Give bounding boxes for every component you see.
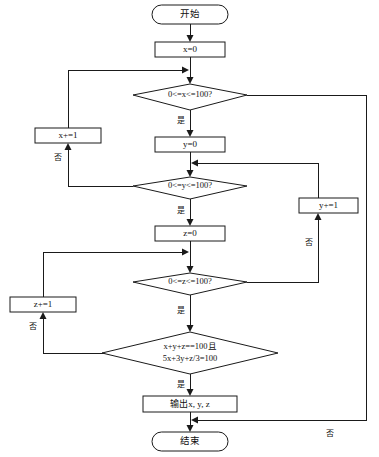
edge-label-no-equation: 否 [326, 429, 334, 438]
init-y-label: y=0 [183, 139, 198, 149]
node-cond-x[interactable]: 0<=x<=100? [133, 84, 247, 110]
inc-x-label: x+=1 [58, 130, 77, 140]
edge-condy-no-to-incx [68, 148, 133, 186]
start-label: 开始 [180, 8, 200, 19]
node-inc-y[interactable]: y+=1 [299, 198, 358, 213]
arrowhead-output [187, 389, 194, 396]
arrowhead-condz [187, 266, 194, 273]
node-init-z[interactable]: z=0 [155, 226, 225, 241]
edge-incz-to-condz-join [43, 252, 183, 297]
edge-label-no-x: 否 [54, 153, 62, 162]
cond-equation-label-line1: x+y+z==100且 [163, 341, 216, 351]
flowchart-canvas: 开始 x=0 0<=x<=100? x+=1 y=0 0<=y<=100? [0, 0, 379, 457]
node-cond-z[interactable]: 0<=z<=100? [133, 273, 247, 295]
node-cond-y[interactable]: 0<=y<=100? [133, 177, 247, 199]
edge-condz-no-to-incy [247, 218, 318, 282]
arrowhead-condy [187, 170, 194, 177]
arrowhead-condeq [187, 325, 194, 332]
edge-label-yes-x: 是 [177, 116, 185, 125]
cond-y-label: 0<=y<=100? [168, 180, 212, 190]
flowchart-svg: 开始 x=0 0<=x<=100? x+=1 y=0 0<=y<=100? [0, 0, 379, 457]
arrowhead-incy [315, 213, 322, 220]
cond-x-label: 0<=x<=100? [168, 89, 212, 99]
node-output[interactable]: 输出x, y, z [143, 396, 237, 412]
output-label: 输出x, y, z [170, 398, 209, 409]
node-init-x[interactable]: x=0 [155, 42, 225, 57]
edge-label-no-y: 否 [305, 238, 313, 247]
arrowhead-incz-join [182, 249, 189, 256]
arrowhead-condx [187, 77, 194, 84]
end-label: 结束 [180, 435, 200, 446]
node-cond-equation[interactable]: x+y+z==100且 5x+3y+z/3=100 [102, 332, 278, 374]
arrowhead-incx-join [182, 67, 189, 74]
arrowhead-initz [187, 219, 194, 226]
node-inc-z[interactable]: z+=1 [10, 297, 76, 312]
node-inc-x[interactable]: x+=1 [35, 128, 101, 143]
edge-label-yes-y: 是 [177, 206, 185, 215]
arrowhead-initx [187, 35, 194, 42]
arrowhead-incy-join [191, 160, 198, 167]
node-end[interactable]: 结束 [152, 432, 228, 451]
init-x-label: x=0 [183, 44, 198, 54]
inc-y-label: y+=1 [319, 200, 338, 210]
arrowhead-condx-no-rail [191, 417, 198, 424]
arrowhead-end [187, 425, 194, 432]
edge-label-yes-z: 是 [177, 306, 185, 315]
inc-z-label: z+=1 [34, 299, 53, 309]
arrowhead-incz [40, 312, 47, 319]
cond-equation-label-line2: 5x+3y+z/3=100 [163, 353, 218, 363]
arrowhead-incx [65, 143, 72, 150]
arrowhead-inity [187, 130, 194, 137]
edge-label-no-z: 否 [29, 322, 37, 331]
edge-condeq-no-to-incz [43, 317, 110, 353]
init-z-label: z=0 [183, 228, 197, 238]
node-start[interactable]: 开始 [152, 5, 228, 24]
cond-z-label: 0<=z<=100? [168, 276, 212, 286]
edge-label-yes-equation: 是 [177, 380, 185, 389]
node-init-y[interactable]: y=0 [155, 137, 225, 152]
